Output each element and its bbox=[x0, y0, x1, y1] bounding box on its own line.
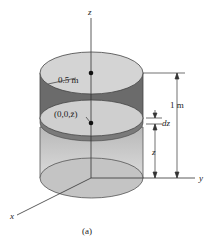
center-top-point bbox=[89, 71, 94, 76]
z-axis-label: z bbox=[87, 7, 92, 17]
cylinder-diagram: z y x 0.5 m (0,0,z̄) 1 m dz z (a) bbox=[0, 0, 214, 250]
height-label: 1 m bbox=[170, 100, 184, 110]
x-axis-label: x bbox=[9, 211, 14, 221]
y-axis-label: y bbox=[198, 173, 203, 183]
z-dimension-label: z bbox=[151, 147, 156, 157]
point-label: (0,0,z̄) bbox=[54, 109, 78, 119]
radius-label: 0.5 m bbox=[58, 75, 79, 85]
dz-label: dz bbox=[162, 118, 171, 128]
figure-caption: (a) bbox=[82, 226, 92, 236]
disk-element bbox=[40, 100, 143, 141]
